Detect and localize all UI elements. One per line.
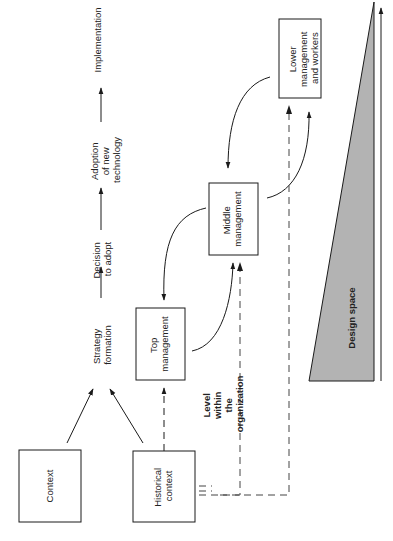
middle-management-box: Middle management bbox=[209, 183, 258, 255]
decision-to-adopt-label: Decision to adopt bbox=[91, 239, 113, 278]
implementation-label: Implementation bbox=[92, 8, 103, 73]
adoption-label: Adoption of new technology bbox=[89, 137, 122, 183]
strategy-formation-label: Strategy formation bbox=[91, 325, 113, 365]
context-label: Context bbox=[44, 469, 55, 502]
process-flow: Strategy formation Decision to adopt Ado… bbox=[89, 8, 122, 365]
curve-top-to-middle bbox=[192, 263, 233, 351]
arrow-context-to-strategy bbox=[67, 389, 93, 443]
top-management-box: Top management bbox=[136, 308, 185, 380]
arrow-historical-to-strategy bbox=[110, 389, 143, 443]
dashed-arrowhead-lower bbox=[286, 105, 292, 114]
curve-middle-to-lower bbox=[267, 112, 309, 198]
curve-middle-to-top bbox=[164, 208, 206, 300]
dashed-connectors bbox=[199, 112, 289, 495]
level-within-organization-label: Level within the organization bbox=[201, 376, 245, 433]
lower-management-box: Lower management and workers bbox=[279, 19, 321, 98]
context-box: Context bbox=[19, 450, 81, 522]
curve-lower-to-middle bbox=[228, 77, 270, 168]
diagram-canvas: Strategy formation Decision to adopt Ado… bbox=[0, 0, 393, 541]
dashed-arrowhead-middle bbox=[237, 262, 243, 271]
historical-context-label: Historical context bbox=[152, 465, 174, 507]
historical-context-box: Historical context bbox=[133, 451, 195, 522]
design-space-label: Design space bbox=[346, 287, 357, 348]
